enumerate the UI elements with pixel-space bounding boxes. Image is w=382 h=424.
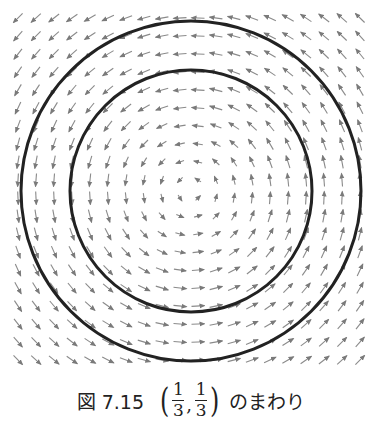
vector-arrow — [156, 17, 169, 19]
vector-arrow — [338, 85, 345, 96]
vector-arrow — [124, 157, 129, 168]
vector-arrow — [340, 246, 345, 258]
vector-arrow — [176, 161, 184, 164]
vector-arrow — [322, 138, 326, 150]
vector-arrow — [192, 270, 204, 271]
vector-arrow — [246, 358, 258, 362]
vector-arrow — [356, 319, 364, 329]
vector-arrow — [341, 156, 343, 169]
vector-arrow — [34, 228, 37, 241]
vector-arrow — [319, 338, 329, 347]
vector-arrow — [87, 138, 92, 150]
vector-arrow — [102, 51, 113, 58]
vector-arrow — [120, 303, 131, 309]
vector-arrow — [228, 70, 240, 74]
vector-arrow — [49, 356, 59, 364]
vector-arrow — [210, 17, 223, 19]
figure-caption: 図 7.15 ( 1 3 , 1 3 ) のまわり — [0, 376, 382, 424]
vector-arrow — [267, 228, 273, 239]
vector-arrow — [192, 108, 205, 109]
vector-arrow — [282, 15, 293, 21]
vector-arrow — [178, 195, 182, 201]
vector-arrow — [194, 161, 202, 163]
vector-arrow — [156, 53, 169, 56]
vector-arrow — [33, 85, 40, 96]
vector-arrow — [138, 105, 149, 111]
vector-arrow — [85, 68, 95, 76]
vector-arrow — [50, 301, 58, 311]
vector-arrow — [85, 33, 96, 40]
vector-arrow — [195, 178, 201, 182]
vector-arrow — [302, 265, 309, 276]
vector-arrow — [268, 156, 272, 168]
vector-arrow — [250, 157, 255, 167]
vector-arrow — [84, 357, 95, 364]
vector-arrow — [14, 337, 23, 347]
vector-arrow — [53, 210, 55, 223]
vector-arrow — [140, 140, 148, 148]
vector-arrow — [192, 288, 205, 289]
vector-arrow — [320, 67, 329, 77]
vector-arrow — [121, 121, 130, 130]
vector-arrow — [32, 301, 40, 311]
vector-arrow — [338, 301, 346, 311]
vector-arrow — [285, 247, 292, 258]
vector-arrow — [231, 158, 237, 166]
vector-arrow — [68, 85, 76, 95]
vector-arrow — [358, 228, 361, 241]
vector-arrow — [174, 269, 186, 271]
vector-arrow — [287, 174, 288, 187]
open-paren: ( — [160, 383, 169, 417]
vector-arrow — [265, 265, 274, 274]
vector-arrow — [356, 337, 365, 347]
vector-arrow — [266, 247, 274, 257]
vector-arrow — [103, 302, 114, 310]
vector-arrow — [121, 266, 131, 274]
vector-arrow — [210, 88, 223, 91]
vector-arrow — [14, 319, 22, 329]
vector-arrow — [321, 264, 328, 275]
vector-arrow — [338, 319, 347, 329]
vector-arrow — [88, 156, 92, 168]
vector-arrow — [49, 338, 59, 347]
vector-arrow — [266, 121, 274, 131]
vector-arrow — [51, 246, 56, 258]
vector-arrow — [51, 102, 58, 113]
vector-arrow — [210, 341, 223, 343]
vector-arrow — [264, 15, 276, 20]
vector-arrow — [247, 122, 256, 131]
vector-arrow — [264, 357, 276, 363]
vector-arrow — [358, 138, 361, 151]
vector-arrow — [211, 250, 221, 254]
vector-arrow — [122, 139, 129, 149]
vector-arrow — [270, 192, 271, 204]
vector-arrow — [286, 156, 290, 168]
vector-arrow — [120, 16, 132, 21]
vector-arrow — [356, 301, 363, 312]
vector-arrow — [120, 358, 132, 363]
vector-arrow — [138, 52, 150, 56]
vector-arrow — [302, 283, 310, 293]
vector-arrow — [267, 138, 274, 149]
vector-arrow — [16, 120, 21, 132]
vector-arrow — [301, 50, 311, 58]
vector-arrow — [285, 138, 291, 150]
vector-arrow — [54, 192, 55, 205]
vector-arrow — [108, 192, 109, 205]
vector-arrow — [228, 88, 240, 93]
vector-arrow — [157, 250, 167, 255]
vector-arrow — [355, 14, 364, 23]
vector-arrow — [35, 210, 37, 223]
vector-arrow — [340, 228, 344, 241]
vector-arrow — [192, 306, 205, 307]
vector-arrow — [210, 53, 223, 55]
vector-arrow — [269, 174, 271, 186]
vector-arrow — [228, 105, 240, 111]
vector-arrow — [192, 54, 205, 55]
vector-arrow — [14, 67, 21, 78]
vector-arrow — [301, 32, 311, 40]
vector-arrow — [32, 67, 40, 77]
vector-arrow — [15, 102, 21, 114]
vector-arrow — [248, 139, 255, 149]
vector-arrow — [174, 54, 187, 55]
